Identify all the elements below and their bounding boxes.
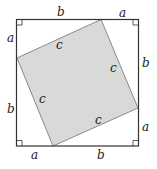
label-bottom-b: b (97, 148, 105, 162)
right-angle-marker-top-right (133, 20, 139, 26)
label-left-b: b (7, 102, 15, 116)
inner-square (17, 20, 138, 147)
label-top-b: b (57, 5, 65, 19)
label-c-top: c (56, 38, 63, 52)
label-right-a: a (142, 120, 149, 134)
right-angle-marker-top-left (17, 20, 23, 26)
label-c-left: c (39, 92, 46, 106)
label-bottom-a: a (31, 148, 38, 162)
label-top-a: a (119, 6, 126, 20)
label-left-a: a (7, 31, 14, 45)
pythagorean-diagram: b a b a a b a b c c c c (0, 0, 157, 169)
right-angle-marker-bottom-right (133, 141, 139, 147)
right-angle-marker-bottom-left (17, 141, 23, 147)
label-c-bottom: c (95, 113, 102, 127)
label-right-b: b (142, 56, 150, 70)
label-c-right: c (110, 61, 117, 75)
